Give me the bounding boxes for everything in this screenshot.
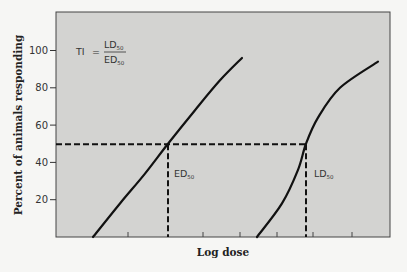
formula-equals: = [92, 46, 100, 57]
formula-lhs: TI [75, 46, 85, 57]
y-tick-label: 20 [35, 194, 48, 205]
y-tick-label: 80 [35, 82, 48, 93]
y-tick-label: 60 [35, 120, 48, 131]
chart: 20406080100 Percent of animals respondin… [0, 0, 407, 272]
x-axis-label: Log dose [197, 246, 250, 258]
chart-svg: 20406080100 Percent of animals respondin… [0, 0, 407, 272]
y-axis-label: Percent of animals responding [12, 34, 24, 215]
y-tick-label: 100 [29, 45, 48, 56]
y-tick-label: 40 [35, 157, 48, 168]
y-axis-ticks: 20406080100 [29, 45, 56, 205]
